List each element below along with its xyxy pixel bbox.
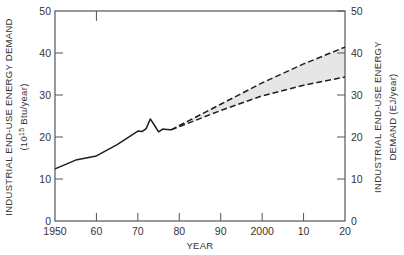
x-tick-label: 70 <box>132 225 144 237</box>
y-axis-title: INDUSTRIAL END-USE ENERGY DEMAND <box>3 18 14 216</box>
y2-tick-label: 20 <box>351 131 363 143</box>
projection-band-fill <box>171 47 345 130</box>
y2-tick-label: 0 <box>351 215 357 227</box>
y2-axis-title: INDUSTRIAL END-USE ENERGY <box>372 41 383 193</box>
y-units-open: (10 <box>18 136 29 151</box>
y-tick-label: 0 <box>45 215 51 227</box>
y-axis-units: (1015 Btu/year) <box>18 83 29 150</box>
y-tick-label: 10 <box>39 173 51 185</box>
x-tick-label: 90 <box>215 225 227 237</box>
x-tick-label: 2000 <box>250 225 274 237</box>
historical-line <box>55 119 171 169</box>
energy-demand-chart: 1950607080902000102000101020203030404050… <box>0 0 404 255</box>
y-units-exponent: 15 <box>18 128 25 136</box>
projection-line <box>171 77 345 130</box>
x-tick-label: 80 <box>173 225 185 237</box>
y2-tick-label: 30 <box>351 89 363 101</box>
tick-labels: 1950607080902000102000101020203030404050… <box>39 5 363 237</box>
projection-band <box>171 47 345 130</box>
y-tick-label: 50 <box>39 5 51 17</box>
y-tick-label: 40 <box>39 47 51 59</box>
y-tick-label: 30 <box>39 89 51 101</box>
x-axis-title: YEAR <box>186 240 213 251</box>
y2-tick-label: 40 <box>351 47 363 59</box>
y2-tick-label: 10 <box>351 173 363 185</box>
x-tick-label: 20 <box>339 225 351 237</box>
y2-axis-units: DEMAND (EJ/year) <box>387 73 398 160</box>
y2-tick-label: 50 <box>351 5 363 17</box>
y-units-rest: Btu/year) <box>18 83 29 127</box>
data-lines <box>55 47 345 169</box>
x-tick-label: 60 <box>91 225 103 237</box>
y-tick-label: 20 <box>39 131 51 143</box>
x-tick-label: 10 <box>298 225 310 237</box>
